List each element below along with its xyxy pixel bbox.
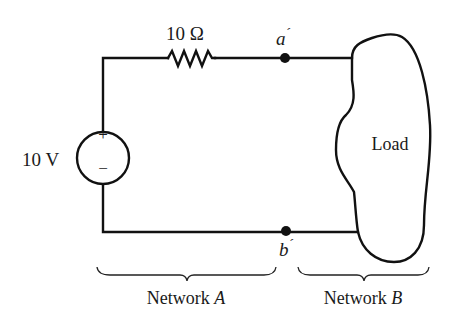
network-braces: [97, 267, 429, 281]
network-b-label: Network B: [324, 288, 402, 308]
terminal-a-node-icon: [280, 53, 290, 63]
source-minus-sign: −: [98, 159, 108, 178]
circuit-diagram: 10 Ω + − 10 V a´ b´ Load Network A Netwo…: [0, 0, 449, 321]
terminal-b-label: b´: [279, 237, 294, 260]
network-a-brace-icon: [97, 267, 276, 281]
terminal-a-label: a´: [276, 26, 291, 49]
source-plus-sign: +: [98, 125, 108, 144]
wire-top-left: [103, 58, 168, 132]
network-b-brace-icon: [298, 267, 429, 281]
network-a-label: Network A: [147, 288, 226, 308]
resistor-label: 10 Ω: [166, 23, 204, 44]
source-label: 10 V: [22, 149, 59, 170]
wire-bottom: [103, 184, 358, 232]
circuit-wires: [103, 58, 358, 232]
load: Load: [336, 34, 430, 262]
resistor: 10 Ω: [166, 23, 215, 66]
resistor-zigzag-icon: [168, 51, 215, 66]
voltage-source: + − 10 V: [22, 125, 129, 184]
load-label: Load: [372, 134, 409, 154]
terminal-b-node-icon: [281, 226, 291, 236]
